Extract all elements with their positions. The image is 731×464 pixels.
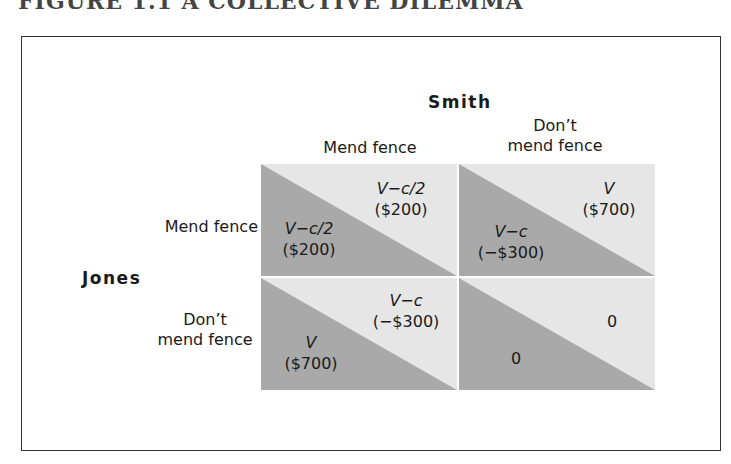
payoff-cell-dont-mend: V ($700) V−c (−$300): [261, 278, 457, 390]
row-strategy-dont-mend: Don’t mend fence: [150, 310, 260, 350]
column-player-label: Smith: [428, 92, 492, 112]
column-strategy-dont-mend: Don’t mend fence: [490, 116, 620, 156]
row-player-label: Jones: [82, 268, 141, 288]
row-strategy-mend: Mend fence: [148, 217, 258, 237]
smith-payoff: V ($700): [569, 178, 649, 220]
payoff-cell-dont-dont: 0 0: [459, 278, 655, 390]
cell-diagonal-shading: [459, 278, 655, 390]
column-strategy-mend: Mend fence: [300, 138, 440, 158]
payoff-cell-mend-mend: V−c/2 ($200) V−c/2 ($200): [261, 164, 457, 276]
smith-payoff: V−c/2 ($200): [361, 178, 441, 220]
jones-payoff: 0: [501, 348, 531, 369]
smith-payoff: V−c (−$300): [361, 290, 451, 332]
payoff-cell-mend-dont: V−c (−$300) V ($700): [459, 164, 655, 276]
smith-payoff: 0: [597, 311, 627, 332]
jones-payoff: V−c/2 ($200): [269, 218, 349, 260]
jones-payoff: V−c (−$300): [471, 221, 551, 263]
figure-title: FIGURE 1.1 A COLLECTIVE DILEMMA: [18, 0, 524, 14]
jones-payoff: V ($700): [275, 332, 347, 374]
